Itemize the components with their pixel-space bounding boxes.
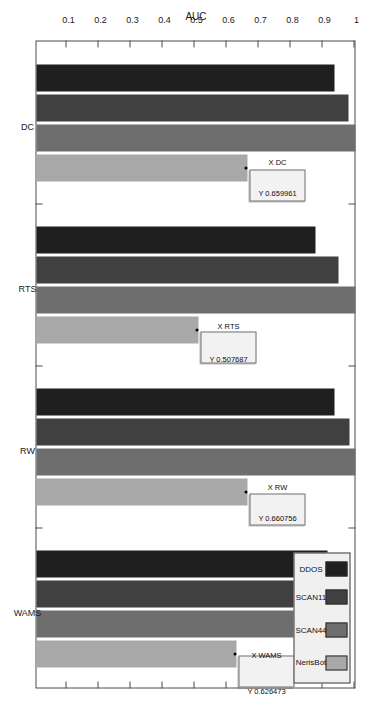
y-tick-label: 0.4 — [151, 14, 177, 24]
y-tick-mirror — [193, 681, 194, 688]
legend[interactable]: DDOSSCAN11SCAN44NerisBot — [293, 552, 350, 683]
bar-nerisbot-dc — [36, 154, 247, 181]
x-tick-boundary-top — [348, 203, 355, 204]
y-tick — [353, 40, 354, 47]
datatip-marker-rw — [244, 490, 247, 493]
legend-swatch-ddos — [325, 561, 347, 576]
x-tick-label-rw: RW — [20, 445, 35, 455]
x-tick-label-dc: DC — [21, 121, 34, 131]
bar-nerisbot-rw — [36, 478, 247, 505]
legend-item-scan44[interactable]: SCAN44 — [296, 614, 347, 645]
y-tick — [225, 40, 226, 47]
y-tick-mirror — [161, 681, 162, 688]
x-tick-boundary-top — [348, 527, 355, 528]
y-tick — [97, 40, 98, 47]
y-tick — [257, 40, 258, 47]
x-tick-label-wams: WAMS — [13, 607, 41, 617]
legend-label-scan11: SCAN11 — [295, 592, 326, 601]
y-tick — [289, 40, 290, 47]
bar-scan11-wams — [36, 580, 325, 607]
bar-nerisbot-rts — [36, 316, 198, 343]
y-tick — [161, 40, 162, 47]
legend-swatch-scan11 — [325, 589, 347, 604]
y-tick-mirror — [353, 681, 354, 688]
rotated-figure-wrapper: AUC X DCY 0.659961X RTSY 0.507687X RWY 0… — [0, 0, 369, 715]
y-tick — [129, 40, 130, 47]
x-tick-boundary — [35, 365, 42, 366]
bar-ddos-dc — [36, 64, 334, 91]
bar-ddos-rw — [36, 388, 334, 415]
x-tick-boundary-top — [348, 365, 355, 366]
y-tick-mirror — [65, 681, 66, 688]
chart-screenshot: AUC X DCY 0.659961X RTSY 0.507687X RWY 0… — [0, 0, 369, 715]
datatip-marker-rts — [195, 328, 198, 331]
figure-canvas: AUC X DCY 0.659961X RTSY 0.507687X RWY 0… — [0, 0, 369, 715]
y-tick — [193, 40, 194, 47]
legend-label-ddos: DDOS — [299, 564, 322, 573]
y-tick-mirror — [129, 681, 130, 688]
datatip-marker-wams — [233, 652, 236, 655]
datatip-y-text: Y 0.626473 — [247, 686, 285, 715]
legend-swatch-nerisbot — [325, 655, 347, 670]
y-tick-label: 0.7 — [247, 14, 273, 24]
legend-swatch-scan44 — [325, 622, 347, 637]
y-tick-label: 1 — [343, 14, 369, 24]
y-tick-mirror — [225, 681, 226, 688]
bar-scan11-dc — [36, 94, 348, 121]
y-tick-label: 0.3 — [119, 14, 145, 24]
y-tick-label: 0.2 — [87, 14, 113, 24]
datatip-rw[interactable]: X RWY 0.660756 — [249, 493, 305, 525]
bar-scan44-rw — [36, 448, 355, 475]
x-tick-boundary — [35, 203, 42, 204]
legend-item-scan11[interactable]: SCAN11 — [296, 582, 347, 613]
y-tick-label: 0.5 — [183, 14, 209, 24]
legend-item-nerisbot[interactable]: NerisBot — [296, 647, 347, 678]
y-tick-label: 0.6 — [215, 14, 241, 24]
y-tick — [321, 40, 322, 47]
y-tick-label: 0.1 — [55, 14, 81, 24]
datatip-wams[interactable]: X WAMSY 0.626473 — [238, 655, 294, 687]
datatip-rts[interactable]: X RTSY 0.507687 — [200, 331, 256, 363]
datatip-y-text: Y 0.660756 — [258, 514, 296, 564]
x-tick-label-rts: RTS — [18, 283, 36, 293]
datatip-y-text: Y 0.659961 — [258, 188, 296, 238]
datatip-marker-dc — [244, 166, 247, 169]
datatip-dc[interactable]: X DCY 0.659961 — [249, 169, 305, 201]
legend-item-ddos[interactable]: DDOS — [296, 557, 347, 580]
y-tick-label: 0.9 — [311, 14, 337, 24]
bar-scan44-dc — [36, 124, 355, 151]
datatip-y-text: Y 0.507687 — [209, 354, 247, 404]
x-tick-boundary — [35, 527, 42, 528]
y-tick-label: 0.8 — [279, 14, 305, 24]
y-tick-mirror — [97, 681, 98, 688]
legend-label-nerisbot: NerisBot — [295, 658, 326, 667]
legend-label-scan44: SCAN44 — [295, 625, 326, 634]
y-tick — [65, 40, 66, 47]
plot-area: X DCY 0.659961X RTSY 0.507687X RWY 0.660… — [35, 40, 355, 688]
bar-scan44-rts — [36, 286, 355, 313]
bar-scan11-rw — [36, 418, 349, 445]
bar-scan11-rts — [36, 256, 338, 283]
bar-nerisbot-wams — [36, 640, 236, 667]
